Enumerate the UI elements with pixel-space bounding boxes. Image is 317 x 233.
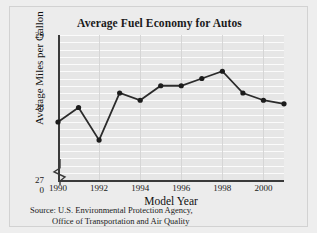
- figure-frame: Average Fuel Economy for Autos 2928270 1…: [9, 6, 308, 227]
- x-tick-label: 1990: [38, 183, 78, 193]
- source-line-2: Office of Transportation and Air Quality: [30, 216, 295, 227]
- data-point-marker: [76, 105, 81, 110]
- data-point-marker: [96, 138, 101, 143]
- data-point-marker: [117, 90, 122, 95]
- source-note: Source: U.S. Environmental Protection Ag…: [30, 205, 295, 227]
- x-axis-line: [58, 180, 284, 182]
- y-axis-label: Average Miles per Gallon: [33, 0, 45, 143]
- x-tick-label: 1996: [161, 183, 201, 193]
- data-point-marker: [158, 83, 163, 88]
- x-tick-label: 2000: [243, 183, 283, 193]
- data-point-marker: [240, 90, 245, 95]
- x-tick-label: 1998: [202, 183, 242, 193]
- figure-canvas: Average Fuel Economy for Autos 2928270 1…: [0, 0, 317, 233]
- data-point-marker: [138, 98, 143, 103]
- data-point-marker: [220, 69, 225, 74]
- data-series-fuel-economy: [58, 35, 284, 180]
- data-point-marker: [55, 119, 60, 124]
- data-point-marker: [261, 98, 266, 103]
- chart-title: Average Fuel Economy for Autos: [10, 17, 309, 29]
- data-point-marker: [281, 101, 286, 106]
- data-point-marker: [199, 76, 204, 81]
- data-point-marker: [179, 83, 184, 88]
- y-axis-break-icon: [51, 159, 69, 185]
- x-tick-label: 1994: [120, 183, 160, 193]
- source-line-1: Source: U.S. Environmental Protection Ag…: [30, 205, 295, 216]
- series-line: [58, 71, 284, 140]
- plot-wrapper: [48, 35, 284, 180]
- x-tick-label: 1992: [79, 183, 119, 193]
